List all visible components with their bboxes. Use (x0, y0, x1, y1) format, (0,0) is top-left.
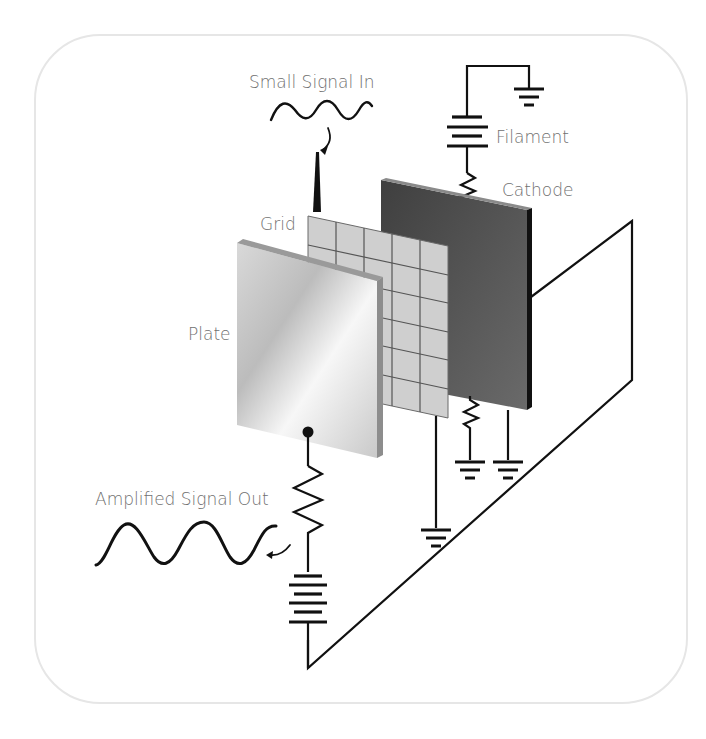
label-small-signal-in: Small Signal In (249, 72, 374, 92)
plate-node-dot (303, 427, 314, 438)
plate-electrode (237, 239, 383, 458)
plate-output-circuit (289, 432, 327, 668)
cathode-ground-circuit (455, 396, 523, 478)
label-filament: Filament (496, 127, 569, 147)
amplified-signal-wave-icon (96, 522, 290, 565)
label-amplified-signal-out: Amplified Signal Out (95, 489, 269, 509)
small-signal-wave-icon (271, 101, 372, 155)
triode-diagram: Small Signal In Filament Cathode Grid Pl… (0, 0, 706, 739)
label-grid: Grid (260, 214, 296, 234)
grid-ground-circuit (421, 416, 451, 546)
grid-input-wire (313, 152, 321, 212)
label-plate: Plate (188, 324, 231, 344)
label-cathode: Cathode (502, 180, 573, 200)
